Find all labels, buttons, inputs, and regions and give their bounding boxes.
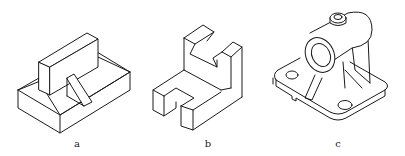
caption-b: b [198,138,218,149]
support-inner [343,62,345,88]
hole-left [286,71,298,79]
caption-c: c [328,138,348,149]
caption-a: a [67,138,87,149]
base-plate-side [276,80,385,120]
right-support-outer [368,38,370,83]
rib [305,75,322,100]
right-support [352,45,370,83]
figure-c-drawing [0,0,405,156]
right-support-base [345,70,362,88]
hole-right [338,101,352,110]
